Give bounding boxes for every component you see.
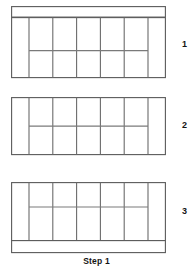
frame-outline-3 — [12, 183, 166, 241]
figure-diagram-1 — [11, 6, 166, 79]
figure-diagram-2 — [11, 97, 166, 156]
figure-label-3: 3 — [173, 207, 187, 216]
step-caption: Step 1 — [0, 256, 193, 266]
top-bar-1 — [12, 7, 166, 18]
frame-drawing-1 — [11, 6, 166, 79]
figure-row-3: 3 — [0, 182, 193, 257]
bottom-bar-3 — [12, 241, 166, 253]
step-diagram-sheet: 1 2 — [0, 0, 193, 273]
figure-label-2: 2 — [173, 121, 187, 130]
figure-row-2: 2 — [0, 97, 193, 157]
frame-outline-1 — [12, 18, 166, 78]
figure-row-1: 1 — [0, 6, 193, 82]
frame-drawing-3 — [11, 182, 166, 254]
frame-drawing-2 — [11, 97, 166, 156]
figure-diagram-3 — [11, 182, 166, 254]
figure-label-1: 1 — [173, 40, 187, 49]
